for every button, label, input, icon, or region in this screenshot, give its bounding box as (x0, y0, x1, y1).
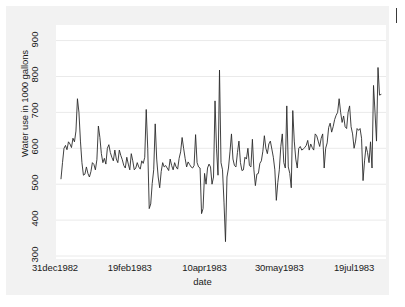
x-tick-label: 19jul1983 (314, 262, 394, 273)
x-tick-label: 31dec1982 (15, 262, 95, 273)
line-chart-svg (56, 25, 386, 259)
y-tick-label: 800 (29, 60, 40, 90)
series-line (61, 68, 381, 242)
x-tick-label: 10apr1983 (165, 262, 245, 273)
x-tick-label: 30may1983 (239, 262, 319, 273)
plot-region (56, 25, 386, 259)
data-series-group (61, 68, 381, 242)
y-tick-label: 500 (29, 168, 40, 198)
y-tick-label: 600 (29, 132, 40, 162)
y-tick-label: 700 (29, 96, 40, 126)
x-axis-title: date (0, 276, 405, 287)
text-cursor-marker (396, 8, 397, 23)
chart-screenshot: Water use in 1000 gallons 30040050060070… (0, 0, 405, 307)
y-tick-label: 900 (29, 24, 40, 54)
x-tick-label: 19feb1983 (90, 262, 170, 273)
graph-surround: Water use in 1000 gallons 30040050060070… (6, 6, 389, 295)
y-tick-label: 400 (29, 204, 40, 234)
